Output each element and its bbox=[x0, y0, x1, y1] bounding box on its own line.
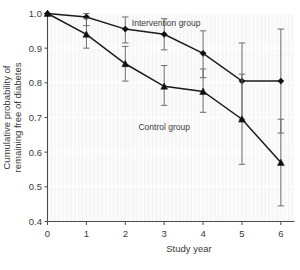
survival-curve-figure: 0.40.50.60.70.80.91.00123456Study yearCu… bbox=[0, 0, 300, 270]
x-axis-tick-label: 1 bbox=[84, 228, 89, 239]
annotation-control-group: Control group bbox=[138, 122, 190, 132]
y-axis-tick-label: 0.8 bbox=[29, 77, 42, 88]
y-axis-tick-label: 0.9 bbox=[29, 43, 42, 54]
x-axis-tick-label: 5 bbox=[239, 228, 244, 239]
y-axis-title: Cumulative probability ofremaining free … bbox=[1, 62, 23, 172]
x-axis-tick-label: 0 bbox=[45, 228, 50, 239]
x-axis-tick-label: 4 bbox=[200, 228, 205, 239]
y-axis-title-line1: Cumulative probability of bbox=[1, 65, 12, 169]
y-axis-title-line2: remaining free of diabetes bbox=[12, 62, 23, 172]
y-axis-tick-label: 1.0 bbox=[29, 8, 42, 19]
y-axis-tick-label: 0.7 bbox=[29, 112, 42, 123]
x-axis-tick-label: 6 bbox=[278, 228, 283, 239]
annotation-intervention-group: Intervention group bbox=[132, 18, 201, 28]
x-axis-tick-label: 3 bbox=[162, 228, 167, 239]
cumulative-probability-chart: 0.40.50.60.70.80.91.00123456Study yearCu… bbox=[0, 0, 300, 270]
y-axis-tick-label: 0.6 bbox=[29, 147, 42, 158]
x-axis-title: Study year bbox=[166, 243, 211, 254]
y-axis-tick-label: 0.4 bbox=[29, 216, 42, 227]
x-axis-tick-label: 2 bbox=[123, 228, 128, 239]
y-axis-tick-label: 0.5 bbox=[29, 181, 42, 192]
